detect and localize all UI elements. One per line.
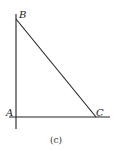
- vertex-label-a: A: [5, 107, 13, 118]
- figure-caption: (c): [50, 135, 62, 145]
- hypotenuse-bc: [16, 19, 96, 117]
- vertex-label-c: C: [96, 107, 104, 118]
- triangle-diagram: B A C (c): [0, 0, 115, 151]
- vertex-label-b: B: [18, 9, 26, 20]
